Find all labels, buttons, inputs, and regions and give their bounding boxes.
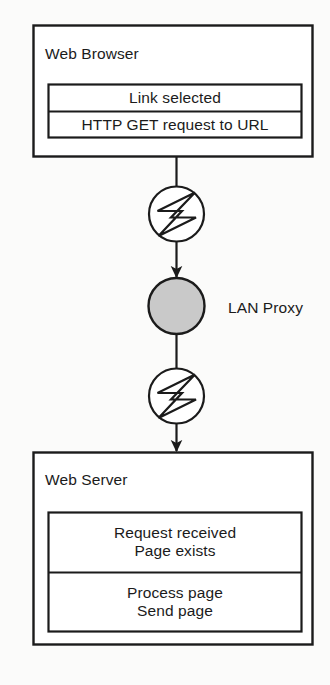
lan-proxy-label: LAN Proxy (228, 299, 303, 317)
browser-step-http-get-request: HTTP GET request to URL (48, 116, 302, 134)
server-step-request-received: Request received Page exists (48, 524, 302, 561)
web-browser-title: Web Browser (45, 45, 139, 63)
server-step-process-page: Process page Send page (48, 584, 302, 621)
lan-proxy-circle (149, 278, 205, 334)
web-server-title: Web Server (45, 471, 128, 489)
network-flow-diagram: Web Browser Link selected HTTP GET reque… (0, 0, 330, 685)
browser-step-link-selected: Link selected (48, 89, 302, 107)
